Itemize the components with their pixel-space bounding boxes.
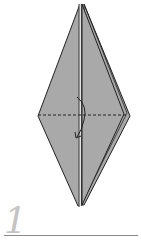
right-flap <box>82 4 124 205</box>
baseline-divider <box>4 235 138 236</box>
left-flap <box>38 4 80 206</box>
step-number: 1 <box>4 203 27 239</box>
